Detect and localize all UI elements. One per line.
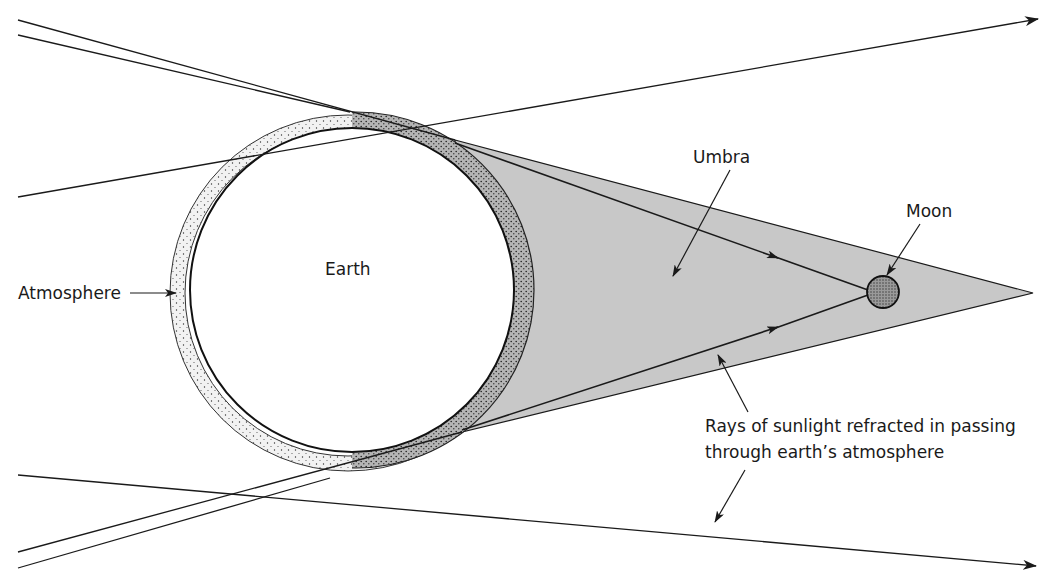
lunar-eclipse-diagram: Earth Atmosphere Umbra Moon Rays of sunl… — [0, 0, 1052, 581]
rays-label-line1: Rays of sunlight refracted in passing — [705, 416, 1016, 436]
moon — [867, 276, 899, 308]
earth-label: Earth — [325, 259, 371, 279]
rays-label-line2: through earth’s atmosphere — [705, 442, 944, 462]
atmosphere-label: Atmosphere — [18, 283, 121, 303]
earth — [190, 128, 514, 452]
umbra-label: Umbra — [693, 147, 750, 167]
moon-label: Moon — [906, 201, 952, 221]
diagram-canvas: Earth Atmosphere Umbra Moon Rays of sunl… — [0, 0, 1052, 581]
umbra-cone — [455, 140, 1033, 432]
